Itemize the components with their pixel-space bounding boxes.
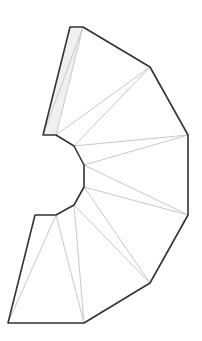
- diagram-canvas: [0, 0, 202, 341]
- fold-line: [84, 187, 150, 283]
- fold-line: [84, 135, 188, 165]
- polygon-net-diagram: [0, 0, 202, 341]
- fold-line: [74, 205, 150, 283]
- outline: [8, 27, 188, 323]
- fold-lines: [8, 27, 188, 323]
- fold-line: [8, 215, 56, 323]
- fold-line: [43, 27, 83, 135]
- net-outline: [8, 27, 188, 323]
- fold-line: [84, 187, 188, 215]
- fold-line: [84, 165, 188, 215]
- fold-line: [74, 67, 150, 146]
- fold-line: [74, 135, 188, 146]
